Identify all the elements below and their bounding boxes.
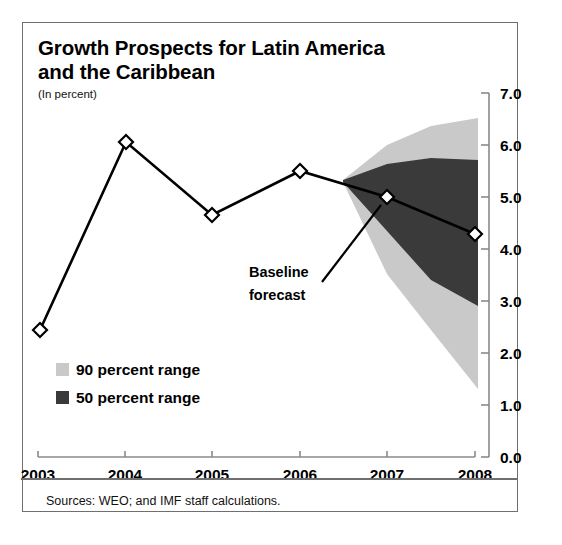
source-divider — [22, 478, 518, 480]
chart-canvas: Baseline forecast 2003 2004 2005 2006 20… — [0, 0, 562, 545]
legend-swatch-50-percent-range — [56, 391, 69, 404]
y-tick-label-7: 7.0 — [500, 85, 522, 102]
data-marker-2003 — [33, 323, 47, 337]
y-tick-label-5: 5.0 — [500, 189, 522, 206]
x-tick-label-2007: 2007 — [370, 466, 404, 483]
baseline-forecast-leader-line — [322, 205, 381, 282]
y-axis-tick-labels: 7.0 6.0 5.0 4.0 3.0 2.0 1.0 0.0 — [500, 85, 522, 466]
x-tick-label-2008: 2008 — [458, 466, 493, 483]
y-tick-label-1: 1.0 — [500, 397, 522, 414]
baseline-forecast-annotation-line-1: Baseline — [249, 264, 309, 280]
x-axis-tick-labels: 2003 2004 2005 2006 2007 2008 — [21, 466, 493, 483]
data-marker-2006 — [293, 164, 307, 178]
y-tick-label-6: 6.0 — [500, 137, 522, 154]
x-tick-label-2004: 2004 — [108, 466, 143, 483]
x-tick-label-2005: 2005 — [195, 466, 230, 483]
y-tick-label-2: 2.0 — [500, 345, 522, 362]
y-tick-label-4: 4.0 — [500, 241, 522, 258]
legend-swatch-90-percent-range — [56, 363, 69, 376]
figure-panel: Growth Prospects for Latin America and t… — [0, 0, 562, 545]
source-note: Sources: WEO; and IMF staff calculations… — [46, 494, 281, 508]
chart-legend: 90 percent range 50 percent range — [56, 361, 200, 406]
x-tick-label-2003: 2003 — [21, 466, 56, 483]
baseline-forecast-annotation-line-2: forecast — [249, 287, 306, 303]
x-axis — [38, 451, 475, 457]
legend-label-90-percent-range: 90 percent range — [76, 361, 200, 378]
y-tick-label-3: 3.0 — [500, 293, 522, 310]
y-tick-label-0: 0.0 — [500, 449, 522, 466]
y-axis — [481, 93, 489, 457]
legend-label-50-percent-range: 50 percent range — [76, 389, 200, 406]
x-tick-label-2006: 2006 — [283, 466, 318, 483]
